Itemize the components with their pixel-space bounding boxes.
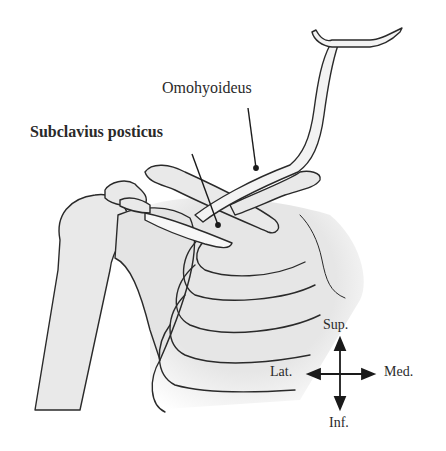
omohyoideus-leader-dot bbox=[254, 166, 258, 170]
direction-superior: Sup. bbox=[323, 318, 348, 332]
omohyoideus-leader bbox=[248, 108, 256, 168]
label-omohyoideus: Omohyoideus bbox=[162, 80, 252, 96]
arrow-up-icon bbox=[335, 338, 345, 350]
direction-inferior: Inf. bbox=[329, 416, 349, 430]
subclavius-leader-dot bbox=[216, 223, 220, 227]
label-subclavius-posticus: Subclavius posticus bbox=[30, 124, 163, 140]
direction-medial: Med. bbox=[384, 365, 413, 379]
humerus-bone bbox=[35, 195, 128, 410]
arrow-right-icon bbox=[362, 369, 374, 379]
anatomy-diagram: Omohyoideus Subclavius posticus Sup. Lat… bbox=[0, 0, 446, 451]
direction-lateral: Lat. bbox=[270, 365, 292, 379]
shoulder-illustration bbox=[0, 0, 446, 451]
hyoid-bone bbox=[312, 28, 402, 47]
arrow-down-icon bbox=[335, 397, 345, 409]
